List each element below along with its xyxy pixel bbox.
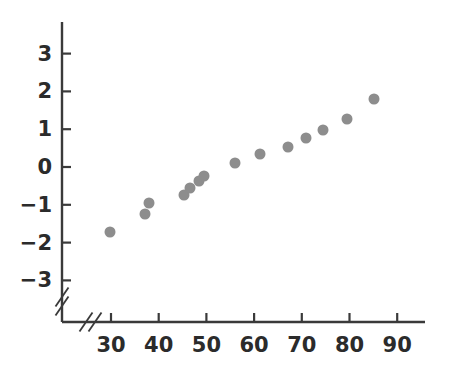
tick-marks-group xyxy=(62,54,397,322)
y-tick-label: −3 xyxy=(20,270,52,291)
data-point xyxy=(301,132,312,143)
x-tick-label: 40 xyxy=(144,335,173,356)
scatter-plot-figure: 30405060708090 3210−1−2−3 xyxy=(0,0,458,384)
data-point xyxy=(368,93,379,104)
x-tick-label: 50 xyxy=(192,335,221,356)
x-tick-label: 60 xyxy=(239,335,268,356)
y-tick-label: 2 xyxy=(37,81,52,102)
plot-axes-svg xyxy=(0,0,458,384)
data-point xyxy=(105,227,116,238)
y-tick-label: −2 xyxy=(20,232,52,253)
data-point xyxy=(282,141,293,152)
x-tick-label: 90 xyxy=(383,335,412,356)
x-tick-label: 30 xyxy=(96,335,125,356)
y-tick-label: 3 xyxy=(37,43,52,64)
x-tick-label: 80 xyxy=(335,335,364,356)
data-point xyxy=(254,149,265,160)
x-tick-label: 70 xyxy=(287,335,316,356)
data-point xyxy=(199,171,210,182)
axes-group xyxy=(62,22,425,322)
y-tick-label: 1 xyxy=(37,119,52,140)
y-tick-label: 0 xyxy=(37,157,52,178)
y-tick-label: −1 xyxy=(20,194,52,215)
data-point xyxy=(318,124,329,135)
data-point xyxy=(144,197,155,208)
data-point xyxy=(230,157,241,168)
data-point xyxy=(342,113,353,124)
data-point xyxy=(139,208,150,219)
